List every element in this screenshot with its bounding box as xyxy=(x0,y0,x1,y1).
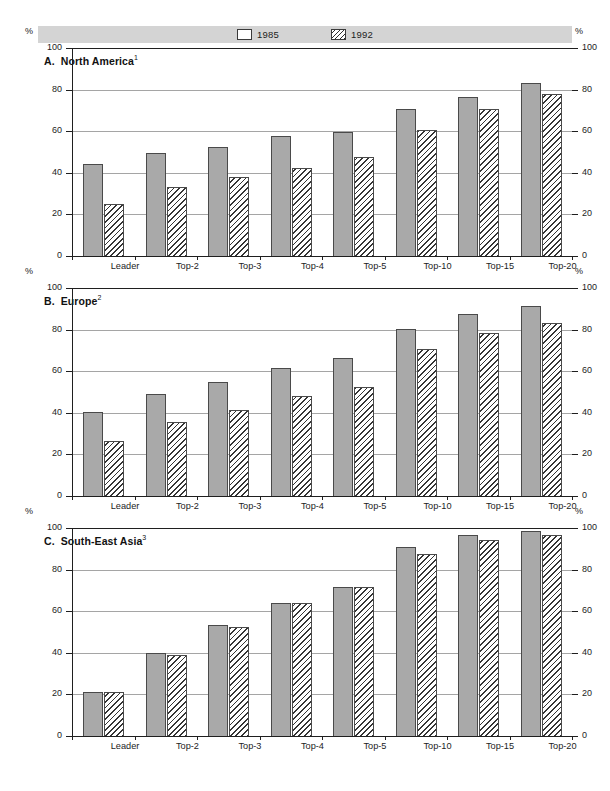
y-axis-spine xyxy=(72,288,73,496)
x-tick xyxy=(385,256,386,260)
y-axis-spine xyxy=(72,528,73,736)
y-tick-label-right-80: 80 xyxy=(582,325,610,334)
y-tick-label-left-100: 100 xyxy=(22,283,62,292)
x-tick xyxy=(572,256,573,260)
bar-1992-Top-5 xyxy=(354,587,374,736)
x-tick xyxy=(447,496,448,500)
gridline-80 xyxy=(72,330,572,331)
y-tick-label-left-60: 60 xyxy=(22,606,62,615)
x-tick xyxy=(260,496,261,500)
x-tick-label-Leader: Leader xyxy=(90,741,160,751)
bar-1985-Top-2 xyxy=(146,153,166,256)
y-tick-right-80 xyxy=(572,570,578,571)
y-tick-label-right-100: 100 xyxy=(582,43,610,52)
y-tick-right-60 xyxy=(572,611,578,612)
gridline-100 xyxy=(72,48,572,49)
bar-1992-Top-4 xyxy=(292,603,312,736)
y-tick-right-40 xyxy=(572,653,578,654)
x-tick-label-Top-10: Top-10 xyxy=(403,261,473,271)
bar-1992-Top-15 xyxy=(479,109,499,256)
x-tick-label-Top-5: Top-5 xyxy=(340,261,410,271)
x-tick xyxy=(260,736,261,740)
y-tick-label-right-60: 60 xyxy=(582,126,610,135)
y-tick-label-right-20: 20 xyxy=(582,209,610,218)
x-tick xyxy=(135,496,136,500)
y-tick-label-right-40: 40 xyxy=(582,408,610,417)
x-tick xyxy=(197,736,198,740)
y-axis-spine xyxy=(72,48,73,256)
bar-1992-Top-5 xyxy=(354,387,374,496)
y-tick-label-right-100: 100 xyxy=(582,523,610,532)
x-tick xyxy=(197,496,198,500)
y-axis-unit-left: % xyxy=(25,26,33,36)
y-tick-right-20 xyxy=(572,214,578,215)
x-tick xyxy=(135,256,136,260)
plot-area-a: 100100808060604040202000LeaderTop-2Top-3… xyxy=(72,48,572,256)
y-tick-label-left-0: 0 xyxy=(22,731,62,740)
x-tick xyxy=(322,736,323,740)
bar-1992-Top-5 xyxy=(354,157,374,256)
x-tick-label-Top-20: Top-20 xyxy=(528,741,598,751)
bar-1985-Top-10 xyxy=(396,329,416,496)
gridline-80 xyxy=(72,90,572,91)
x-tick xyxy=(72,256,73,260)
x-tick xyxy=(510,256,511,260)
x-tick-label-Top-5: Top-5 xyxy=(340,741,410,751)
bar-1985-Top-5 xyxy=(333,587,353,736)
y-tick-right-100 xyxy=(572,528,578,529)
y-tick-label-right-100: 100 xyxy=(582,283,610,292)
bar-1992-Top-10 xyxy=(417,130,437,256)
y-axis-unit-right: % xyxy=(575,506,583,516)
x-tick-label-Top-15: Top-15 xyxy=(465,261,535,271)
bar-1992-Top-15 xyxy=(479,540,499,736)
x-tick-label-Top-3: Top-3 xyxy=(215,741,285,751)
bar-1985-Top-20 xyxy=(521,83,541,256)
y-tick-label-right-40: 40 xyxy=(582,168,610,177)
y-tick-right-40 xyxy=(572,413,578,414)
bar-1985-Top-5 xyxy=(333,132,353,256)
bar-1992-Top-4 xyxy=(292,396,312,496)
bar-1985-Leader xyxy=(83,692,103,736)
y-tick-right-60 xyxy=(572,371,578,372)
x-tick xyxy=(510,736,511,740)
y-tick-label-left-20: 20 xyxy=(22,449,62,458)
y-tick-label-right-0: 0 xyxy=(582,251,610,260)
y-tick-label-left-60: 60 xyxy=(22,366,62,375)
bar-1992-Top-2 xyxy=(167,187,187,256)
y-tick-right-80 xyxy=(572,90,578,91)
y-tick-label-left-20: 20 xyxy=(22,209,62,218)
x-tick xyxy=(510,496,511,500)
x-tick-label-Top-15: Top-15 xyxy=(465,741,535,751)
y-tick-right-20 xyxy=(572,694,578,695)
bar-1985-Top-15 xyxy=(458,314,478,496)
bar-1992-Top-2 xyxy=(167,655,187,736)
y-tick-label-right-60: 60 xyxy=(582,366,610,375)
bar-1985-Top-15 xyxy=(458,535,478,736)
bar-1992-Leader xyxy=(104,441,124,496)
bar-1992-Leader xyxy=(104,692,124,736)
y-axis-unit-right: % xyxy=(575,26,583,36)
bar-1985-Top-4 xyxy=(271,603,291,736)
x-tick-label-Top-3: Top-3 xyxy=(215,501,285,511)
x-tick-label-Top-4: Top-4 xyxy=(278,741,348,751)
x-tick xyxy=(260,256,261,260)
legend-label-1992: 1992 xyxy=(351,29,373,40)
x-tick xyxy=(72,496,73,500)
bar-1992-Top-3 xyxy=(229,410,249,496)
y-tick-right-60 xyxy=(572,131,578,132)
x-tick-label-Top-4: Top-4 xyxy=(278,501,348,511)
bar-1992-Top-3 xyxy=(229,627,249,736)
x-tick-label-Top-20: Top-20 xyxy=(528,261,598,271)
y-tick-right-80 xyxy=(572,330,578,331)
bar-1992-Top-3 xyxy=(229,177,249,256)
y-tick-label-left-60: 60 xyxy=(22,126,62,135)
bar-1985-Top-3 xyxy=(208,625,228,736)
y-tick-right-100 xyxy=(572,288,578,289)
y-tick-right-40 xyxy=(572,173,578,174)
y-tick-label-left-0: 0 xyxy=(22,491,62,500)
bar-1985-Top-20 xyxy=(521,306,541,496)
bar-1992-Top-2 xyxy=(167,422,187,496)
y-tick-label-right-0: 0 xyxy=(582,491,610,500)
bar-1985-Top-4 xyxy=(271,136,291,256)
bar-1985-Top-10 xyxy=(396,109,416,256)
